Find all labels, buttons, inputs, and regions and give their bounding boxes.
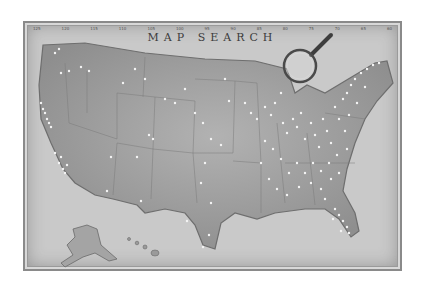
us-map — [25, 23, 402, 271]
hawaii-shape — [128, 238, 160, 257]
contiguous-us-shape — [39, 43, 393, 249]
map-title: MAP SEARCH — [25, 31, 400, 44]
map-frame: 125 120 115 110 105 100 95 90 85 80 75 7… — [23, 21, 402, 271]
alaska-shape — [61, 225, 117, 267]
